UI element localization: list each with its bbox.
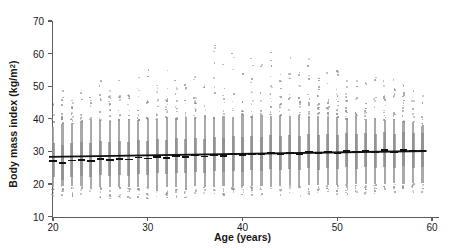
y-tick-50	[48, 86, 52, 87]
x-tick-label-20: 20	[33, 222, 73, 233]
plot-area	[53, 21, 439, 217]
x-tick-60	[431, 217, 432, 221]
x-tick-label-40: 40	[223, 222, 263, 233]
x-tick-label-50: 50	[317, 222, 357, 233]
y-tick-label-70: 70	[4, 16, 44, 27]
trend-line	[53, 21, 439, 217]
y-tick-label-40: 40	[4, 113, 44, 124]
y-tick-10	[48, 216, 52, 217]
x-tick-label-30: 30	[128, 222, 168, 233]
x-tick-20	[52, 217, 53, 221]
y-tick-label-60: 60	[4, 48, 44, 59]
x-tick-label-60: 60	[412, 222, 452, 233]
x-tick-30	[147, 217, 148, 221]
y-tick-60	[48, 53, 52, 54]
y-axis-label-close: )	[7, 60, 19, 64]
y-tick-label-30: 30	[4, 146, 44, 157]
x-tick-40	[242, 217, 243, 221]
y-tick-70	[48, 20, 52, 21]
bmi-age-scatter-figure: Body mass index (kg/m2) Age (years) 1020…	[0, 0, 461, 248]
x-tick-50	[337, 217, 338, 221]
trend-line-segment	[49, 151, 427, 157]
y-tick-label-10: 10	[4, 211, 44, 222]
y-tick-label-50: 50	[4, 81, 44, 92]
y-tick-label-20: 20	[4, 178, 44, 189]
